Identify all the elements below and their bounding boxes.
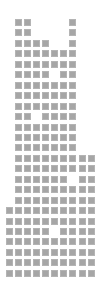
grid-cell — [24, 186, 31, 193]
grid-cell — [15, 82, 22, 89]
grid-cell — [24, 144, 31, 151]
grid-cell — [79, 207, 86, 214]
grid-cell — [33, 40, 40, 47]
grid-cell — [60, 144, 67, 151]
grid-cell — [33, 61, 40, 68]
grid-cell — [51, 165, 58, 172]
grid-cell — [51, 92, 58, 99]
grid-cell — [60, 270, 67, 277]
grid-cell — [33, 144, 40, 151]
grid-cell — [24, 71, 31, 78]
grid-cell — [15, 218, 22, 225]
grid-cell — [51, 124, 58, 131]
grid-cell — [51, 113, 58, 120]
grid-cell — [88, 249, 95, 256]
grid-cell — [79, 238, 86, 245]
grid-cell — [60, 228, 67, 235]
grid-cell — [69, 144, 76, 151]
grid-cell — [79, 218, 86, 225]
grid-cell — [24, 165, 31, 172]
grid-cell — [15, 186, 22, 193]
grid-cell — [15, 144, 22, 151]
grid-cell — [69, 228, 76, 235]
grid-cell — [33, 218, 40, 225]
grid-cell — [33, 50, 40, 57]
grid-cell — [69, 50, 76, 57]
grid-cell — [15, 71, 22, 78]
grid-cell — [60, 238, 67, 245]
grid-cell — [69, 197, 76, 204]
grid-cell — [24, 207, 31, 214]
grid-cell — [24, 92, 31, 99]
grid-cell — [15, 124, 22, 131]
grid-cell — [69, 61, 76, 68]
grid-cell — [24, 50, 31, 57]
grid-cell — [42, 259, 49, 266]
grid-cell — [15, 228, 22, 235]
grid-cell — [15, 249, 22, 256]
grid-cell — [24, 228, 31, 235]
grid-cell — [69, 165, 76, 172]
grid-cell — [51, 61, 58, 68]
grid-cell — [69, 124, 76, 131]
grid-cell — [6, 238, 13, 245]
grid-cell — [51, 134, 58, 141]
grid-cell — [6, 270, 13, 277]
grid-cell — [24, 249, 31, 256]
grid-cell — [69, 238, 76, 245]
grid-cell — [15, 155, 22, 162]
grid-cell — [15, 61, 22, 68]
grid-cell — [69, 103, 76, 110]
grid-cell — [24, 197, 31, 204]
grid-cell — [24, 218, 31, 225]
grid-cell — [33, 124, 40, 131]
grid-cell — [51, 176, 58, 183]
grid-cell — [88, 207, 95, 214]
grid-cell — [69, 82, 76, 89]
grid-cell — [88, 186, 95, 193]
grid-cell — [15, 40, 22, 47]
grid-cell — [60, 259, 67, 266]
grid-cell — [42, 71, 49, 78]
grid-cell — [60, 186, 67, 193]
grid-cell — [6, 218, 13, 225]
grid-cell — [33, 165, 40, 172]
square-tile-grid — [0, 0, 98, 290]
grid-cell — [88, 259, 95, 266]
grid-cell — [60, 61, 67, 68]
grid-cell — [42, 40, 49, 47]
grid-cell — [42, 197, 49, 204]
grid-cell — [15, 134, 22, 141]
grid-cell — [60, 124, 67, 131]
grid-cell — [33, 103, 40, 110]
grid-cell — [24, 134, 31, 141]
grid-cell — [42, 186, 49, 193]
grid-cell — [79, 270, 86, 277]
grid-cell — [69, 113, 76, 120]
grid-cell — [69, 249, 76, 256]
grid-cell — [33, 197, 40, 204]
grid-cell — [33, 134, 40, 141]
grid-cell — [42, 238, 49, 245]
grid-cell — [24, 40, 31, 47]
grid-cell — [24, 103, 31, 110]
grid-cell — [15, 50, 22, 57]
grid-cell — [51, 249, 58, 256]
grid-cell — [69, 29, 76, 36]
grid-cell — [24, 176, 31, 183]
grid-cell — [79, 186, 86, 193]
grid-cell — [24, 113, 31, 120]
grid-cell — [60, 103, 67, 110]
grid-cell — [69, 207, 76, 214]
grid-cell — [42, 207, 49, 214]
grid-cell — [51, 270, 58, 277]
grid-cell — [51, 186, 58, 193]
grid-cell — [79, 259, 86, 266]
grid-cell — [60, 176, 67, 183]
grid-cell — [15, 207, 22, 214]
grid-cell — [69, 270, 76, 277]
grid-cell — [33, 186, 40, 193]
grid-cell — [15, 113, 22, 120]
grid-cell — [88, 197, 95, 204]
grid-cell — [42, 270, 49, 277]
